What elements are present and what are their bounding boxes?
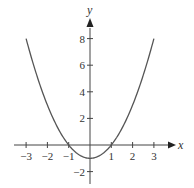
x-tick-label: 2 [130,150,136,162]
parabola-chart: xy−3−2−11238642−2 [0,0,194,188]
y-tick-label: 8 [80,33,86,45]
y-axis-label: y [86,3,93,17]
x-axis-arrow-icon [168,142,176,149]
y-tick-label: 4 [80,86,86,98]
y-tick-label: 6 [80,59,86,71]
x-tick-label: 1 [109,150,115,162]
x-tick-label: −1 [63,150,75,162]
x-tick-label: 3 [151,150,157,162]
tick-labels: xy−3−2−11238642−2 [20,3,184,178]
x-tick-label: −3 [20,150,32,162]
x-tick-label: −2 [42,150,54,162]
x-axis-label: x [177,138,184,152]
y-tick-label: 2 [80,112,86,124]
y-axis-arrow-icon [87,18,94,27]
y-tick-label: −2 [73,166,85,178]
